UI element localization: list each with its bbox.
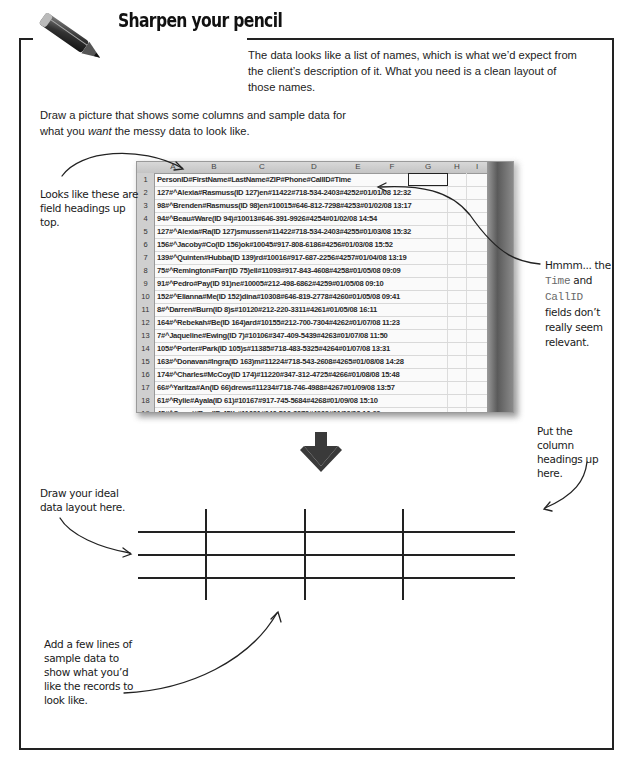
row-number: 17	[137, 382, 154, 394]
layout-grid-divider	[402, 509, 404, 600]
annotation-field-headings: Looks like these are field headings up t…	[40, 187, 140, 229]
spreadsheet-row: 105#^Porter#Park(ID 105)s#11385#718-483-…	[155, 343, 489, 356]
spreadsheet-row: 7#^Jaqueline#Ewing(ID 7)#10106#347-409-5…	[155, 330, 489, 343]
annotation-suffix: fields don’t really seem relevant.	[545, 306, 603, 348]
row-number: 9	[137, 278, 154, 290]
frame-top-left	[19, 38, 33, 40]
spreadsheet-row: 75#^Remington#Farr(ID 75)ell#11093#917-8…	[155, 265, 489, 278]
instruction-text: Draw a picture that shows some columns a…	[40, 107, 370, 139]
spreadsheet-row: 152#^Elianna#Me(ID 152)dina#10308#646-81…	[155, 291, 489, 304]
down-arrow-icon	[300, 432, 342, 472]
spreadsheet-row: 174#^Charles#McCoy(ID 174)#11220#347-312…	[155, 369, 489, 382]
row-number: 7	[137, 252, 154, 264]
spreadsheet-row: 66#^Yaritza#An(ID 66)drews#11234#718-746…	[155, 382, 489, 395]
column-header: C	[237, 162, 287, 171]
annotation-middle: and	[573, 274, 592, 286]
pencil-icon	[30, 8, 110, 68]
spreadsheet-row: 127#^Alexia#Ra(ID 127)smussen#11422#718-…	[155, 226, 489, 239]
column-header: D	[288, 162, 340, 171]
spreadsheet-row: 45#^Omari#Rus(ID 45)h#11691#646-516-3070…	[155, 408, 489, 413]
row-number: 1	[137, 174, 154, 186]
row-number: 13	[137, 330, 154, 342]
annotation-ideal-layout: Draw your ideal data layout here.	[40, 486, 130, 514]
field-name-time: Time	[545, 275, 570, 287]
layout-grid-divider	[304, 509, 306, 600]
spreadsheet-row: 94#^Beau#Ware(ID 94)#10013#646-391-9926#…	[155, 213, 489, 226]
column-header: H	[448, 162, 466, 171]
spreadsheet-row: 91#^Pedro#Pay(ID 91)ne#10005#212-498-686…	[155, 278, 489, 291]
column-header: B	[192, 162, 236, 171]
column-header: I	[467, 162, 487, 171]
selected-cell-g1	[408, 173, 448, 186]
spreadsheet-row: 163#^Donavan#Ingra(ID 163)m#11224#718-54…	[155, 356, 489, 369]
annotation-column-headings: Put the column headings up here.	[537, 424, 609, 480]
frame-bottom	[19, 748, 614, 750]
frame-left	[19, 38, 21, 749]
instruction-after: the messy data to look like.	[112, 125, 250, 137]
field-name-callid: CallID	[545, 291, 583, 303]
annotation-sample-data: Add a few lines of sample data to show w…	[44, 637, 144, 707]
row-number: 10	[137, 291, 154, 303]
frame-right	[612, 38, 614, 749]
row-number: 6	[137, 239, 154, 251]
row-number: 11	[137, 304, 154, 316]
spreadsheet-row: 98#^Brenden#Rasmuss(ID 98)en#10015#646-8…	[155, 200, 489, 213]
annotation-irrelevant-fields: Hmmm... the Time and CallID fields don’t…	[545, 258, 615, 350]
layout-grid-line	[138, 554, 515, 556]
spreadsheet-scrollbar	[487, 162, 513, 412]
arrow-to-sample-data	[124, 613, 277, 693]
row-number: 15	[137, 356, 154, 368]
spreadsheet-row: 164#^Rebekah#Be(ID 164)ard#10155#212-700…	[155, 317, 489, 330]
arrow-to-ideal-layout	[60, 518, 130, 553]
row-number: 8	[137, 265, 154, 277]
row-number: 19	[137, 408, 154, 413]
spreadsheet-row: 8#^Darren#Burn(ID 8)s#10120#212-220-3311…	[155, 304, 489, 317]
spreadsheet-row: 61#^Rylie#Ayala(ID 61)#10167#917-745-568…	[155, 395, 489, 408]
row-number: 18	[137, 395, 154, 407]
spreadsheet-row: 139#^Quinten#Hubba(ID 139)rd#10016#917-6…	[155, 252, 489, 265]
spreadsheet-row: 127#^Alexia#Rasmuss(ID 127)en#11422#718-…	[155, 187, 489, 200]
spreadsheet-row: 156#^Jacoby#Co(ID 156)ok#10045#917-808-6…	[155, 239, 489, 252]
frame-top-right	[247, 38, 614, 40]
column-header: E	[341, 162, 375, 171]
annotation-prefix: Hmmm... the	[545, 259, 611, 271]
column-header: A	[155, 162, 191, 171]
row-number: 12	[137, 317, 154, 329]
section-title: Sharpen your pencil	[118, 9, 282, 31]
intro-text: The data looks like a list of names, whi…	[248, 47, 578, 95]
layout-grid-line	[138, 531, 515, 533]
row-number: 14	[137, 343, 154, 355]
column-header: G	[409, 162, 447, 171]
spreadsheet: A B C D E F G H I 1 PersonID#FirstName#L…	[136, 161, 514, 413]
column-header: F	[376, 162, 408, 171]
layout-grid-divider	[205, 509, 207, 600]
instruction-emphasis: want	[88, 125, 112, 137]
layout-grid-line	[138, 577, 515, 579]
row-number: 16	[137, 369, 154, 381]
